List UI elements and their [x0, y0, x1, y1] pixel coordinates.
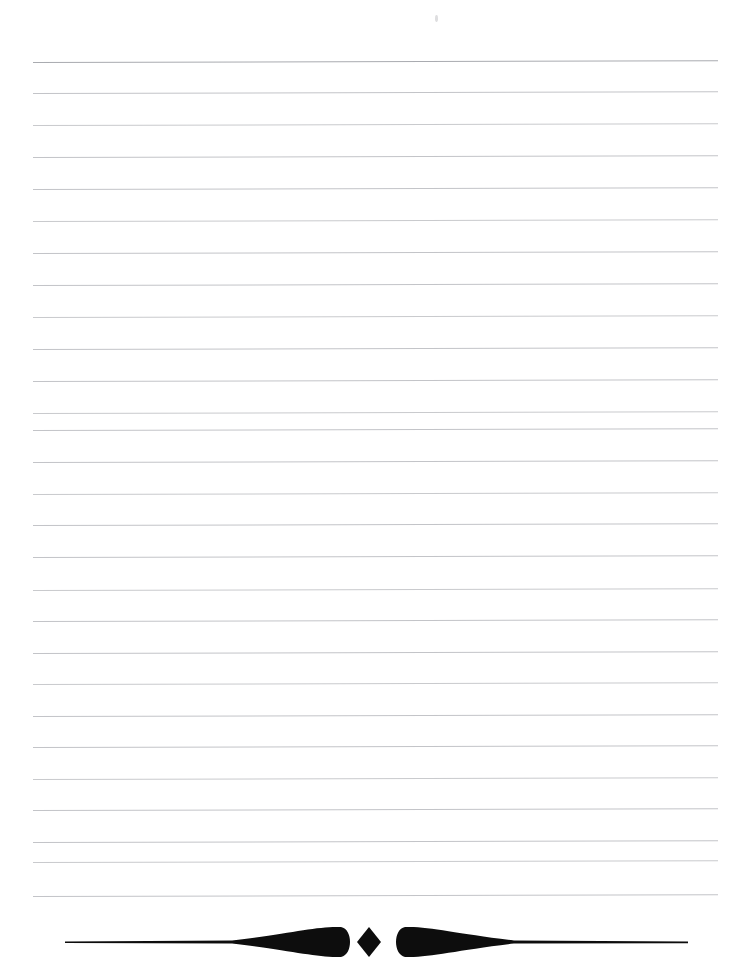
ornament-left-rule	[65, 941, 232, 944]
ruled-line	[33, 411, 718, 414]
typographic-divider-ornament	[0, 905, 747, 978]
ruled-line	[33, 315, 718, 318]
ruled-line	[33, 714, 718, 717]
ruled-line	[33, 428, 718, 431]
paper-speck	[435, 15, 438, 22]
ruled-line	[33, 155, 718, 158]
ruled-line	[33, 251, 718, 254]
ruled-line	[33, 588, 718, 591]
ruled-line	[33, 123, 718, 126]
ruled-line	[33, 894, 718, 897]
ornament-right-teardrop	[396, 927, 514, 957]
ruled-line	[33, 91, 718, 94]
ruled-line	[33, 745, 718, 748]
ruled-line	[33, 219, 718, 222]
ruled-line	[33, 840, 718, 843]
ruled-line	[33, 619, 718, 622]
ruled-line	[33, 347, 718, 350]
ornament-right-rule	[514, 941, 688, 944]
ruled-line	[33, 492, 718, 495]
ruled-line	[33, 860, 718, 863]
ruled-line	[33, 523, 718, 526]
ruled-line	[33, 460, 718, 463]
ruled-line	[33, 777, 718, 780]
ruled-line	[33, 60, 718, 63]
ruled-line	[33, 682, 718, 685]
ruled-line	[33, 379, 718, 382]
ruled-line	[33, 187, 718, 190]
ruled-line	[33, 808, 718, 811]
ruled-line	[33, 651, 718, 654]
ruled-line	[33, 555, 718, 558]
ornament-center-diamond	[357, 927, 381, 957]
paper-page: Blank Lined Notepaper Page	[0, 0, 747, 978]
ruled-line	[33, 283, 718, 286]
ornament-left-teardrop	[232, 927, 350, 957]
ruled-lines	[0, 0, 747, 978]
